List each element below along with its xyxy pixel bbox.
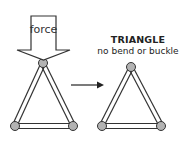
right-triangle <box>98 63 166 131</box>
joint-bottom-right <box>69 122 78 131</box>
left-triangle <box>11 59 78 131</box>
joint-bottom-left <box>11 122 20 131</box>
diagram-title: TRIANGLE <box>98 34 178 45</box>
triangle-force-diagram: force <box>0 0 180 163</box>
joint-bottom-left <box>98 122 107 131</box>
force-arrow: force <box>17 16 70 60</box>
joint-top <box>127 63 136 72</box>
joint-bottom-right <box>157 122 166 131</box>
force-label: force <box>30 23 58 36</box>
transition-arrow <box>71 82 104 89</box>
diagram-subtitle: no bend or buckle <box>92 46 180 56</box>
